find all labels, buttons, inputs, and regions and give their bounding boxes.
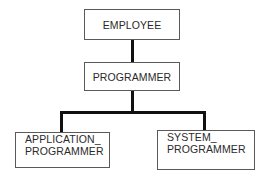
node-system-programmer: SYSTEM_ PROGRAMMER — [157, 130, 255, 170]
edge-programmer-trunk — [131, 91, 134, 113]
node-application-programmer-label-line2: PROGRAMMER — [25, 145, 104, 157]
edge-to-system-programmer — [203, 111, 206, 130]
node-system-programmer-label-line2: PROGRAMMER — [167, 143, 246, 155]
node-application-programmer-label-line1: APPLICATION_ — [25, 133, 101, 145]
edge-branch-bar — [60, 111, 206, 114]
edge-to-application-programmer — [60, 111, 63, 132]
node-application-programmer: APPLICATION_ PROGRAMMER — [15, 132, 110, 168]
node-programmer: PROGRAMMER — [84, 62, 180, 91]
node-employee: EMPLOYEE — [84, 9, 180, 40]
node-programmer-label: PROGRAMMER — [93, 71, 172, 83]
edge-employee-programmer — [131, 40, 134, 62]
node-employee-label: EMPLOYEE — [103, 19, 162, 31]
node-system-programmer-label-line1: SYSTEM_ — [167, 131, 217, 143]
